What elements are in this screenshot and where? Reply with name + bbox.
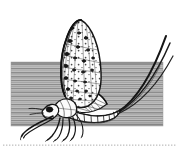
mayfly-illustration (0, 0, 179, 151)
eye (46, 107, 53, 112)
dotted-baseline (2, 144, 177, 146)
illustration-canvas: Mayfly resting on a hatched band (0, 0, 179, 151)
